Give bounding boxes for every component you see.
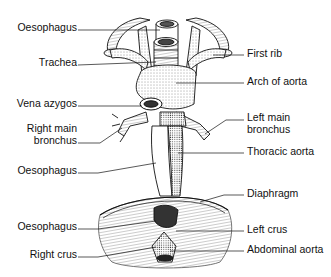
oesophagus-thoracic-shape [151, 126, 182, 196]
label-trachea: Trachea [39, 57, 77, 68]
label-left-main-bronchus-line1: Left main [247, 112, 290, 123]
anatomy-diagram: Oesophagus Trachea Vena azygos Right mai… [0, 0, 331, 277]
label-right-main-bronchus-line2: bronchus [34, 135, 77, 146]
label-oesophagus-middle: Oesophagus [17, 165, 77, 176]
label-oesophagus-lower: Oesophagus [17, 221, 77, 232]
label-right-main-bronchus-line1: Right main [27, 123, 77, 134]
label-first-rib: First rib [247, 48, 282, 59]
label-arch-of-aorta: Arch of aorta [247, 76, 307, 87]
label-oesophagus-upper: Oesophagus [17, 22, 77, 33]
label-vena-azygos: Vena azygos [17, 98, 77, 109]
vena-azygos-shape [140, 98, 162, 110]
label-left-main-bronchus-line2: bronchus [247, 124, 290, 135]
label-abdominal-aorta: Abdominal aorta [247, 244, 323, 255]
label-thoracic-aorta: Thoracic aorta [247, 146, 314, 157]
label-right-crus: Right crus [30, 249, 77, 260]
diaphragm-shape [99, 197, 232, 268]
label-diaphragm: Diaphragm [247, 188, 298, 199]
label-left-crus: Left crus [247, 224, 287, 235]
